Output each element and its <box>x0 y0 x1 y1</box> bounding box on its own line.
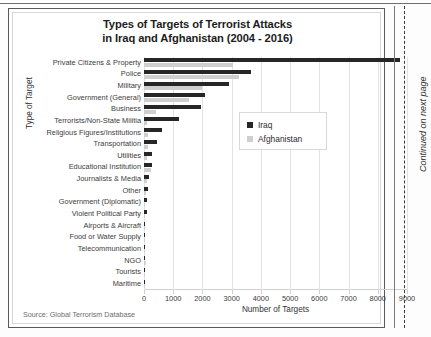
bar-iraq <box>144 280 145 284</box>
y-axis-category-label: Food or Water Supply <box>69 233 141 241</box>
y-axis-category-label: Other <box>123 187 141 195</box>
bar-group <box>144 70 407 82</box>
bar-iraq <box>144 268 145 272</box>
bar-afghanistan <box>144 63 233 67</box>
x-axis-title: Number of Targets <box>144 305 407 314</box>
y-axis-category-label: Business <box>111 105 141 113</box>
bar-afghanistan <box>144 284 145 288</box>
x-tick-label: 6000 <box>311 294 327 303</box>
bar-afghanistan <box>144 179 147 183</box>
x-tick-label: 4000 <box>253 294 269 303</box>
bar-iraq <box>144 163 152 167</box>
y-axis-category-label: Police <box>121 70 141 78</box>
bar-group <box>144 280 407 292</box>
bar-afghanistan <box>144 191 146 195</box>
legend-label-iraq: Iraq <box>258 120 272 130</box>
bar-afghanistan <box>144 75 239 79</box>
bar-iraq <box>144 93 205 97</box>
x-tick-label: 2000 <box>194 294 210 303</box>
y-axis-category-label: Military <box>118 82 141 90</box>
y-axis-category-label: Telecommunication <box>78 245 141 253</box>
bar-afghanistan <box>144 110 156 114</box>
chart-source-note: Source: Global Terrorism Database <box>23 310 135 319</box>
bar-afghanistan <box>144 238 145 242</box>
bar-group <box>144 82 407 94</box>
plot-area <box>144 57 407 290</box>
bar-iraq <box>144 187 148 191</box>
bar-afghanistan <box>144 98 189 102</box>
bar-iraq <box>144 128 162 132</box>
bar-group <box>144 222 407 234</box>
bar-afghanistan <box>144 145 148 149</box>
bar-group <box>144 268 407 280</box>
bar-group <box>144 175 407 187</box>
bar-afghanistan <box>144 214 145 218</box>
grid-line <box>407 57 408 290</box>
x-tick-label: 3000 <box>223 294 239 303</box>
bar-iraq <box>144 105 201 109</box>
y-axis-category-label: Journalists & Media <box>77 175 142 183</box>
bar-iraq <box>144 233 145 237</box>
bar-iraq <box>144 70 251 74</box>
legend-item-iraq: Iraq <box>247 118 326 132</box>
bar-iraq <box>144 210 147 214</box>
y-axis-category-label: Terrorists/Non-State Militia <box>54 117 141 125</box>
document-page: Types of Targets of Terrorist Attacks in… <box>0 0 431 337</box>
bar-group <box>144 58 407 70</box>
bar-iraq <box>144 198 147 202</box>
continued-on-next-page-note: Continued on next page <box>418 76 428 172</box>
legend-swatch-iraq <box>247 122 253 128</box>
x-tick-label: 0 <box>142 294 146 303</box>
bar-group <box>144 233 407 245</box>
bar-iraq <box>144 245 145 249</box>
x-tick-label: 1000 <box>165 294 181 303</box>
y-axis-category-label: Private Citizens & Property <box>53 59 141 67</box>
page-margin-rule <box>394 6 395 328</box>
y-axis-category-label: Violent Political Party <box>72 210 141 218</box>
y-axis-category-label: Tourists <box>116 268 141 276</box>
bar-iraq <box>144 152 152 156</box>
bar-group <box>144 210 407 222</box>
bar-iraq <box>144 140 157 144</box>
bar-group <box>144 163 407 175</box>
y-axis-category-label: NGO <box>124 257 141 265</box>
bar-group <box>144 198 407 210</box>
y-axis-category-label: Utilities <box>117 152 141 160</box>
bar-afghanistan <box>144 261 146 265</box>
x-tick-label: 8000 <box>370 294 386 303</box>
bar-group <box>144 245 407 257</box>
legend-swatch-afghanistan <box>247 136 253 142</box>
bar-iraq <box>144 222 145 226</box>
chart-legend: Iraq Afghanistan <box>239 112 327 150</box>
y-axis-category-label: Educational Institution <box>69 163 141 171</box>
y-axis-category-label: Government (General) <box>67 94 141 102</box>
chart-title-line-2: in Iraq and Afghanistan (2004 - 2016) <box>9 32 386 46</box>
bar-iraq <box>144 82 229 86</box>
bar-iraq <box>144 175 149 179</box>
x-tick-label: 7000 <box>340 294 356 303</box>
page-top-rule <box>0 3 431 4</box>
bar-group <box>144 187 407 199</box>
bar-afghanistan <box>144 156 147 160</box>
bar-group <box>144 152 407 164</box>
bar-afghanistan <box>144 133 148 137</box>
bar-afghanistan <box>144 203 145 207</box>
legend-item-afghanistan: Afghanistan <box>247 132 326 146</box>
y-axis-category-label: Government (Diplomatic) <box>59 198 141 206</box>
bar-afghanistan <box>144 273 145 277</box>
y-axis-category-label: Airports & Aircraft <box>84 222 142 230</box>
y-axis-category-label: Religious Figures/Institutions <box>47 129 141 137</box>
bar-afghanistan <box>144 121 147 125</box>
chart-title-line-1: Types of Targets of Terrorist Attacks <box>103 18 292 30</box>
bar-group <box>144 256 407 268</box>
page-margin-dashed-line <box>404 6 405 328</box>
x-tick-label: 5000 <box>282 294 298 303</box>
bar-iraq <box>144 117 179 121</box>
bar-afghanistan <box>144 226 145 230</box>
legend-label-afghanistan: Afghanistan <box>258 134 302 144</box>
bar-iraq <box>144 256 145 260</box>
y-axis-category-label: Maritime <box>113 280 141 288</box>
x-tick-label: 9000 <box>399 294 415 303</box>
bar-iraq <box>144 58 400 62</box>
bar-afghanistan <box>144 86 202 90</box>
